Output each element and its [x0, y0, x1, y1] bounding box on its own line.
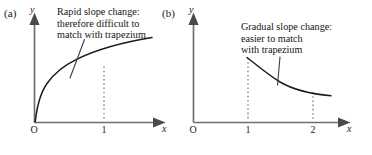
panel-a-xtick-1: 1 — [98, 124, 110, 135]
panel-a-curve — [35, 38, 152, 122]
panel-b-annotation-line-3: with trapezium — [241, 44, 332, 56]
panel-a-annotation-line-2: therefore difficult to — [57, 18, 146, 30]
panel-b-xtick-2: 2 — [307, 124, 319, 135]
panel-b-xtick-1: 1 — [242, 124, 254, 135]
figure-canvas: (a) (b) y x O 1 y x O 1 2 Rapid slope ch… — [0, 0, 372, 155]
panel-b-annotation-line-1: Gradual slope change: — [241, 21, 332, 33]
panel-b-curve — [247, 58, 331, 96]
panel-a-tag: (a) — [4, 7, 17, 19]
panel-a-origin-label: O — [28, 124, 40, 135]
panel-b-x-axis-label: x — [347, 123, 351, 134]
panel-a-annotation: Rapid slope change: therefore difficult … — [57, 6, 146, 41]
panel-a-annotation-line-1: Rapid slope change: — [57, 6, 146, 18]
panel-b-tag: (b) — [162, 7, 175, 19]
panel-b-origin-label: O — [187, 124, 199, 135]
panel-a-annotation-line-3: match with trapezium — [57, 29, 146, 41]
panel-a-leader-line — [70, 40, 85, 79]
panel-a-y-axis-label: y — [30, 4, 34, 15]
panel-b-y-axis-label: y — [189, 4, 193, 15]
panel-a-x-axis-label: x — [162, 123, 166, 134]
panel-b-annotation-line-2: easier to match — [241, 33, 332, 45]
panel-b-annotation: Gradual slope change: easier to match wi… — [241, 21, 332, 56]
